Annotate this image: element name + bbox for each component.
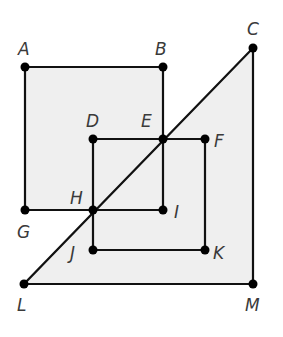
point-e — [159, 135, 168, 144]
point-i — [159, 206, 168, 215]
geometry-diagram: ABCDEFGHIJKLM — [0, 0, 283, 337]
label-g: G — [17, 222, 30, 242]
label-c: C — [247, 19, 259, 39]
label-l: L — [17, 295, 26, 315]
label-h: H — [70, 188, 83, 208]
point-a — [21, 63, 30, 72]
point-k — [201, 246, 210, 255]
point-c — [249, 44, 258, 53]
point-f — [201, 135, 210, 144]
label-b: B — [155, 39, 167, 59]
point-j — [89, 246, 98, 255]
point-b — [159, 63, 168, 72]
label-i: I — [174, 202, 179, 222]
label-k: K — [213, 243, 226, 263]
label-f: F — [214, 131, 224, 151]
point-l — [20, 280, 29, 289]
point-m — [249, 280, 258, 289]
point-h — [89, 206, 98, 215]
label-d: D — [86, 111, 99, 131]
label-m: M — [245, 295, 260, 315]
point-d — [89, 135, 98, 144]
label-e: E — [141, 111, 152, 131]
point-g — [21, 206, 30, 215]
label-a: A — [17, 39, 30, 59]
